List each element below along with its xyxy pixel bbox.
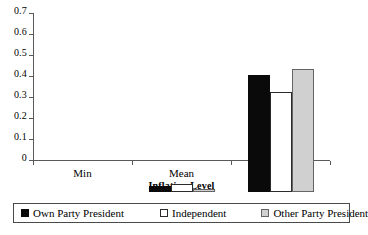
bar-own[interactable] xyxy=(149,186,171,192)
plot-wrapper: 00.10.20.30.40.50.60.7 MinMeanMax Inflat… xyxy=(0,0,365,192)
y-axis-tick-label: 0 xyxy=(22,153,27,163)
bar-group-bars xyxy=(132,45,231,192)
x-axis-tick-mark xyxy=(330,161,331,165)
legend-entry[interactable]: Independent xyxy=(160,207,226,219)
y-axis-tick-label: 0.7 xyxy=(14,6,27,16)
legend-label: Other Party President xyxy=(273,207,368,219)
y-axis-tick-label: 0.5 xyxy=(14,48,27,58)
y-axis-tick-label: 0.2 xyxy=(14,111,27,121)
bar-other[interactable] xyxy=(292,69,314,192)
y-axis-tick-label: 0.3 xyxy=(14,90,27,100)
y-axis-tick-label: 0.1 xyxy=(14,132,27,142)
bar-other[interactable] xyxy=(193,189,215,192)
legend-label: Independent xyxy=(172,207,226,219)
bar-group-bars xyxy=(33,45,132,192)
legend-entry[interactable]: Own Party President xyxy=(21,207,124,219)
legend-swatch-icon xyxy=(21,209,29,217)
y-axis-tick-label: 0.6 xyxy=(14,27,27,37)
legend-entry[interactable]: Other Party President xyxy=(261,207,368,219)
legend-swatch-icon xyxy=(261,209,269,217)
chart-legend: Own Party PresidentIndependentOther Part… xyxy=(13,203,350,223)
bar-ind[interactable] xyxy=(270,92,292,192)
bar-group-bars xyxy=(231,45,330,192)
bar-group xyxy=(132,45,231,192)
y-axis-tick-label: 0.4 xyxy=(14,69,27,79)
bar-group xyxy=(33,45,132,192)
legend-swatch-icon xyxy=(160,209,168,217)
bar-own[interactable] xyxy=(248,75,270,192)
bar-ind[interactable] xyxy=(171,184,193,192)
legend-label: Own Party President xyxy=(33,207,124,219)
bar-group xyxy=(231,45,330,192)
